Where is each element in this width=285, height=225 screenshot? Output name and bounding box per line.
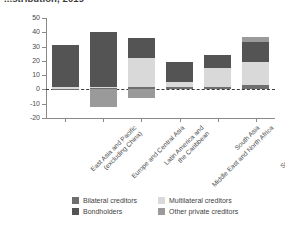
y-tick-mark bbox=[42, 32, 46, 33]
x-axis-label: Latin America andthe Caribbean bbox=[163, 124, 211, 172]
x-axis-line bbox=[46, 118, 275, 119]
x-tick-mark bbox=[65, 118, 66, 122]
bar-segment bbox=[242, 42, 269, 62]
y-tick-mark bbox=[42, 104, 46, 105]
y-tick-label: -20 bbox=[22, 114, 40, 121]
x-axis-label: Middle East and North Africa bbox=[210, 124, 274, 188]
bar-segment bbox=[90, 87, 117, 88]
bar-segment bbox=[52, 87, 79, 89]
bar-segment bbox=[128, 89, 155, 98]
y-tick-mark bbox=[42, 47, 46, 48]
legend-item-multilateral: Multilateral creditors bbox=[158, 197, 232, 204]
bar-segment bbox=[128, 38, 155, 58]
y-tick-mark bbox=[42, 75, 46, 76]
y-tick-label: 30 bbox=[22, 43, 40, 50]
legend-item-bilateral: Bilateral creditors bbox=[72, 197, 137, 204]
legend-label-other-private: Other private creditors bbox=[169, 208, 238, 215]
bar-segment bbox=[90, 89, 117, 106]
legend-swatch-bondholders bbox=[72, 208, 79, 215]
bar-segment bbox=[166, 82, 193, 87]
x-tick-mark bbox=[256, 118, 257, 122]
legend-item-bondholders: Bondholders bbox=[72, 208, 122, 215]
y-tick-mark bbox=[42, 61, 46, 62]
legend-swatch-bilateral bbox=[72, 197, 79, 204]
legend-item-other-private: Other private creditors bbox=[158, 208, 238, 215]
bar-segment bbox=[90, 32, 117, 86]
bar-segment bbox=[242, 85, 269, 89]
y-tick-label: 20 bbox=[22, 57, 40, 64]
zero-dashed-line bbox=[46, 89, 275, 90]
x-tick-mark bbox=[218, 118, 219, 122]
chart-title: ...stribution, 2019 bbox=[4, 0, 84, 4]
y-tick-label: 0 bbox=[22, 85, 40, 92]
y-tick-mark bbox=[42, 18, 46, 19]
y-tick-label: 40 bbox=[22, 28, 40, 35]
chart-container: ...stribution, 2019 US$ (billion) 504030… bbox=[0, 0, 285, 225]
legend-swatch-multilateral bbox=[158, 197, 165, 204]
legend-label-multilateral: Multilateral creditors bbox=[169, 197, 232, 204]
y-tick-label: 50 bbox=[22, 14, 40, 21]
y-axis-line bbox=[46, 18, 47, 118]
y-tick-mark bbox=[42, 118, 46, 119]
x-axis-label: Sub-Saharan Africa bbox=[279, 124, 285, 170]
bar-segment bbox=[52, 45, 79, 86]
y-tick-label: -10 bbox=[22, 100, 40, 107]
x-tick-mark bbox=[180, 118, 181, 122]
legend-swatch-other-private bbox=[158, 208, 165, 215]
bar-segment bbox=[242, 37, 269, 43]
bar-segment bbox=[204, 55, 231, 68]
bar-segment bbox=[204, 68, 231, 87]
bar-segment bbox=[52, 89, 79, 90]
bar-segment bbox=[128, 58, 155, 87]
bar-segment bbox=[166, 87, 193, 89]
legend-label-bondholders: Bondholders bbox=[83, 208, 122, 215]
y-tick-label: 10 bbox=[22, 71, 40, 78]
x-tick-mark bbox=[103, 118, 104, 122]
bar-segment bbox=[166, 62, 193, 82]
x-tick-mark bbox=[141, 118, 142, 122]
bar-segment bbox=[242, 62, 269, 85]
legend-label-bilateral: Bilateral creditors bbox=[83, 197, 137, 204]
bar-segment bbox=[204, 87, 231, 90]
